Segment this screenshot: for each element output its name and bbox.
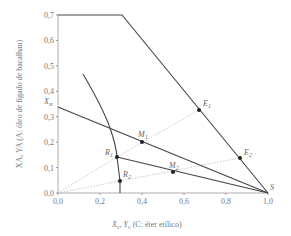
y-axis-label: XA, YA (A: óleo de fígado de bacalhau): [15, 39, 24, 168]
label-r2: R2: [122, 170, 131, 180]
svg-text:1,0: 1,0: [263, 197, 273, 206]
svg-text:0,2: 0,2: [44, 138, 54, 147]
label-e1: E1: [202, 99, 211, 109]
point-e2: [238, 156, 242, 160]
svg-text:0,3: 0,3: [44, 113, 54, 122]
svg-text:0,4: 0,4: [44, 87, 54, 96]
svg-text:0,6: 0,6: [179, 197, 189, 206]
point-m1: [140, 140, 144, 144]
point-r2: [118, 179, 122, 183]
point-e1: [197, 108, 201, 112]
tie-line-2: [58, 158, 240, 193]
tie-line-1: [58, 110, 199, 193]
label-e2: E2: [243, 148, 252, 158]
point-r1: [115, 155, 119, 159]
extract-boundary-line: [58, 15, 268, 193]
label-r1: R1: [104, 148, 113, 158]
raffinate-curve: [83, 74, 120, 193]
svg-text:0,8: 0,8: [221, 197, 231, 206]
label-m1: M1: [137, 130, 148, 140]
svg-text:0,6: 0,6: [44, 36, 54, 45]
svg-text:0,7: 0,7: [44, 11, 54, 20]
point-m2: [171, 170, 175, 174]
label-s: S: [270, 183, 274, 192]
label-xst: Xst: [43, 97, 53, 107]
svg-text:0,0: 0,0: [53, 197, 63, 206]
svg-text:0,1: 0,1: [44, 164, 54, 173]
label-m2: M2: [168, 161, 179, 171]
x-ticks: 0,0 0,2 0,4 0,6 0,8 1,0: [53, 193, 273, 206]
svg-text:0,5: 0,5: [44, 62, 54, 71]
ternary-extraction-chart: 0,0 0,1 0,2 0,3 0,4 0,5 0,6 0,7 0,0 0,2 …: [0, 0, 291, 236]
xst-s-line: [58, 107, 268, 193]
svg-text:0,4: 0,4: [137, 197, 147, 206]
x-axis-label: Xc, Yc (C: éter etílico): [111, 220, 182, 230]
svg-text:0,2: 0,2: [95, 197, 105, 206]
